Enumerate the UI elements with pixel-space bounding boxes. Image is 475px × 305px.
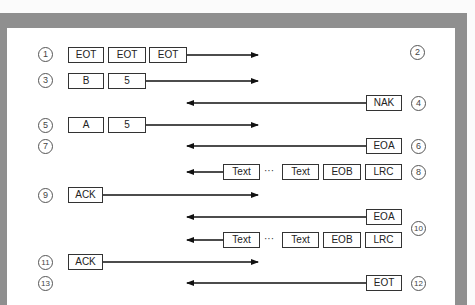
frame-eoa: EOA <box>366 138 402 154</box>
step-number-12: 12 <box>411 276 426 291</box>
frame-ack: ACK <box>68 187 103 203</box>
frame-eob: EOB <box>323 164 361 180</box>
frame-text: Text <box>282 164 319 180</box>
step-number-6: 6 <box>411 139 426 154</box>
frame-ack: ACK <box>68 254 103 270</box>
frame-eot: EOT <box>366 275 402 291</box>
step-number-11: 11 <box>38 255 53 270</box>
frame-eoa: EOA <box>366 209 402 225</box>
frame-eot: EOT <box>108 47 146 63</box>
step-number-8: 8 <box>411 165 426 180</box>
step-number-5: 5 <box>38 118 53 133</box>
step-number-13: 13 <box>38 276 53 291</box>
frame-5: 5 <box>108 117 146 133</box>
step-number-10: 10 <box>411 221 426 236</box>
step-number-4: 4 <box>411 96 426 111</box>
frame-text: Text <box>223 232 260 248</box>
frame-eot: EOT <box>68 47 104 63</box>
ellipsis: ··· <box>264 165 274 176</box>
frame-eot: EOT <box>149 47 187 63</box>
ellipsis: ··· <box>264 233 274 244</box>
frame-b: B <box>68 73 104 89</box>
step-number-1: 1 <box>38 47 53 62</box>
frame-a: A <box>68 117 104 133</box>
step-number-7: 7 <box>38 139 53 154</box>
step-number-9: 9 <box>38 188 53 203</box>
frame-nak: NAK <box>366 95 402 111</box>
frame-text: Text <box>282 232 319 248</box>
step-number-3: 3 <box>38 73 53 88</box>
frame-lrc: LRC <box>365 232 402 248</box>
step-number-2: 2 <box>410 45 425 60</box>
frame-text: Text <box>223 164 260 180</box>
frame-5: 5 <box>108 73 146 89</box>
frame-lrc: LRC <box>365 164 402 180</box>
frame-eob: EOB <box>323 232 361 248</box>
